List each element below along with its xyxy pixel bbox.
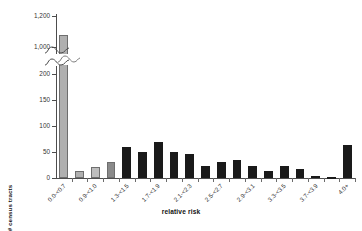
x-axis-tick-label: 4.0+ <box>337 182 350 195</box>
bar <box>217 162 226 178</box>
x-axis-tick <box>229 178 230 182</box>
x-axis-tick <box>87 178 88 182</box>
bar <box>296 169 305 178</box>
x-axis-tick-label: 2.1-<2.3 <box>172 182 193 203</box>
bar-break-icon <box>58 52 80 66</box>
y-axis-tick-label: 1,200 <box>6 13 50 19</box>
bar <box>138 152 147 178</box>
x-axis-tick <box>339 178 340 182</box>
x-axis-tick-label: 1.3-<1.5 <box>109 182 130 203</box>
bar <box>311 176 320 178</box>
bar <box>280 166 289 178</box>
bar <box>201 166 210 178</box>
x-axis-tick <box>292 178 293 182</box>
x-axis-title: relative risk <box>0 208 362 215</box>
x-axis-tick <box>72 178 73 182</box>
bar <box>233 160 242 178</box>
x-axis-tick <box>166 178 167 182</box>
x-axis-tick <box>119 178 120 182</box>
x-axis-tick <box>324 178 325 182</box>
bar <box>107 162 116 178</box>
axis-break-mask <box>57 54 355 65</box>
x-axis-tick <box>261 178 262 182</box>
bar <box>343 145 352 178</box>
y-axis-tick-label: 200 <box>6 71 50 77</box>
x-axis-tick-label: 1.7-<1.9 <box>140 182 161 203</box>
y-axis-tick-label: 0 <box>6 175 50 181</box>
y-axis-tick <box>52 126 56 127</box>
x-axis-tick-label: 3.3-<3.5 <box>266 182 287 203</box>
y-axis-tick-label: 100 <box>6 123 50 129</box>
x-axis-tick <box>135 178 136 182</box>
x-axis-tick <box>103 178 104 182</box>
x-axis-tick <box>276 178 277 182</box>
bar <box>185 154 194 178</box>
x-axis-line <box>56 178 355 179</box>
y-axis-tick <box>52 178 56 179</box>
x-axis-tick-label: 2.9-<3.1 <box>235 182 256 203</box>
y-axis-tick <box>52 152 56 153</box>
y-axis-tick-label: 150 <box>6 97 50 103</box>
x-axis-tick <box>245 178 246 182</box>
x-axis-tick-label: 0.0-<0.7 <box>46 182 67 203</box>
bar <box>154 142 163 178</box>
y-axis-tick <box>52 16 56 17</box>
x-axis-tick <box>308 178 309 182</box>
bar <box>248 166 257 178</box>
bar <box>170 152 179 178</box>
x-axis-tick <box>198 178 199 182</box>
bar <box>122 147 131 178</box>
y-axis-tick <box>52 100 56 101</box>
y-axis-line-lower <box>56 66 57 179</box>
x-axis-tick <box>213 178 214 182</box>
bar <box>327 177 336 179</box>
y-axis-tick <box>52 74 56 75</box>
x-axis-tick-label: 3.7-<3.9 <box>298 182 319 203</box>
x-axis-tick <box>182 178 183 182</box>
bar <box>264 171 273 178</box>
bar <box>75 171 84 178</box>
x-axis-tick-label: 0.9-<1.0 <box>77 182 98 203</box>
bar <box>91 167 100 178</box>
y-axis-tick-label: 50 <box>6 149 50 155</box>
x-axis-tick <box>355 178 356 182</box>
x-axis-tick <box>150 178 151 182</box>
x-axis-tick-label: 2.5-<2.7 <box>203 182 224 203</box>
chart-container: # census tracts 0501001502001,0001,200 0… <box>0 0 362 231</box>
